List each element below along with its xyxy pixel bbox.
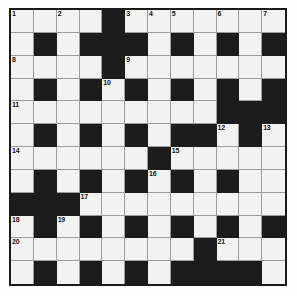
letter-square[interactable] [148, 56, 171, 79]
letter-square[interactable] [11, 33, 34, 56]
letter-square[interactable] [148, 261, 171, 284]
letter-square[interactable] [239, 216, 262, 239]
letter-square[interactable] [194, 33, 217, 56]
letter-square[interactable]: 9 [125, 56, 148, 79]
letter-square[interactable] [102, 101, 125, 124]
letter-square[interactable]: 19 [57, 216, 80, 239]
letter-square[interactable] [102, 261, 125, 284]
letter-square[interactable] [148, 238, 171, 261]
letter-square[interactable] [171, 238, 194, 261]
letter-square[interactable] [102, 193, 125, 216]
blocked-square [34, 193, 57, 216]
letter-square[interactable] [194, 79, 217, 102]
letter-square[interactable] [194, 10, 217, 33]
letter-square[interactable]: 15 [171, 147, 194, 170]
letter-square[interactable] [194, 170, 217, 193]
letter-square[interactable] [239, 79, 262, 102]
letter-square[interactable]: 20 [11, 238, 34, 261]
letter-square[interactable] [102, 216, 125, 239]
letter-square[interactable]: 4 [148, 10, 171, 33]
letter-square[interactable] [239, 170, 262, 193]
letter-square[interactable] [217, 56, 240, 79]
letter-square[interactable]: 21 [217, 238, 240, 261]
letter-square[interactable] [57, 238, 80, 261]
letter-square[interactable] [262, 193, 285, 216]
letter-square[interactable] [57, 261, 80, 284]
crossword-grid[interactable]: 123456789101112131415161718192021 [11, 10, 285, 284]
letter-square[interactable] [262, 238, 285, 261]
letter-square[interactable] [80, 101, 103, 124]
letter-square[interactable] [102, 147, 125, 170]
letter-square[interactable] [148, 101, 171, 124]
letter-square[interactable] [239, 147, 262, 170]
letter-square[interactable]: 17 [80, 193, 103, 216]
letter-square[interactable] [194, 193, 217, 216]
blocked-square [217, 261, 240, 284]
letter-square[interactable]: 10 [102, 79, 125, 102]
letter-square[interactable] [171, 101, 194, 124]
letter-square[interactable] [125, 101, 148, 124]
letter-square[interactable] [102, 124, 125, 147]
letter-square[interactable] [239, 238, 262, 261]
letter-square[interactable] [125, 238, 148, 261]
letter-square[interactable] [57, 101, 80, 124]
letter-square[interactable] [57, 124, 80, 147]
letter-square[interactable] [239, 10, 262, 33]
letter-square[interactable] [125, 193, 148, 216]
letter-square[interactable] [262, 170, 285, 193]
letter-square[interactable] [11, 261, 34, 284]
letter-square[interactable] [148, 216, 171, 239]
letter-square[interactable]: 2 [57, 10, 80, 33]
letter-square[interactable] [57, 170, 80, 193]
letter-square[interactable] [239, 193, 262, 216]
letter-square[interactable]: 5 [171, 10, 194, 33]
letter-square[interactable] [80, 56, 103, 79]
letter-square[interactable]: 18 [11, 216, 34, 239]
letter-square[interactable]: 12 [217, 124, 240, 147]
letter-square[interactable] [194, 56, 217, 79]
letter-square[interactable] [194, 147, 217, 170]
letter-square[interactable]: 7 [262, 10, 285, 33]
letter-square[interactable] [239, 33, 262, 56]
letter-square[interactable] [57, 79, 80, 102]
letter-square[interactable] [171, 56, 194, 79]
letter-square[interactable]: 6 [217, 10, 240, 33]
letter-square[interactable] [262, 261, 285, 284]
letter-square[interactable] [102, 238, 125, 261]
letter-square[interactable] [125, 147, 148, 170]
letter-square[interactable] [171, 193, 194, 216]
letter-square[interactable] [11, 124, 34, 147]
letter-square[interactable] [57, 33, 80, 56]
letter-square[interactable]: 14 [11, 147, 34, 170]
letter-square[interactable]: 8 [11, 56, 34, 79]
letter-square[interactable] [194, 101, 217, 124]
letter-square[interactable] [34, 56, 57, 79]
letter-square[interactable] [217, 193, 240, 216]
letter-square[interactable] [80, 10, 103, 33]
letter-square[interactable] [34, 147, 57, 170]
letter-square[interactable]: 3 [125, 10, 148, 33]
letter-square[interactable] [148, 33, 171, 56]
letter-square[interactable] [34, 238, 57, 261]
letter-square[interactable] [57, 147, 80, 170]
letter-square[interactable] [34, 10, 57, 33]
letter-square[interactable]: 11 [11, 101, 34, 124]
letter-square[interactable] [80, 238, 103, 261]
letter-square[interactable] [217, 147, 240, 170]
letter-square[interactable] [11, 79, 34, 102]
letter-square[interactable] [57, 56, 80, 79]
letter-square[interactable] [148, 79, 171, 102]
letter-square[interactable] [102, 170, 125, 193]
letter-square[interactable] [262, 147, 285, 170]
letter-square[interactable]: 13 [262, 124, 285, 147]
letter-square[interactable] [262, 56, 285, 79]
letter-square[interactable] [239, 56, 262, 79]
letter-square[interactable] [148, 193, 171, 216]
letter-square[interactable] [11, 170, 34, 193]
letter-square[interactable]: 1 [11, 10, 34, 33]
letter-square[interactable] [34, 101, 57, 124]
letter-square[interactable] [194, 216, 217, 239]
letter-square[interactable]: 16 [148, 170, 171, 193]
letter-square[interactable] [80, 147, 103, 170]
letter-square[interactable] [148, 124, 171, 147]
